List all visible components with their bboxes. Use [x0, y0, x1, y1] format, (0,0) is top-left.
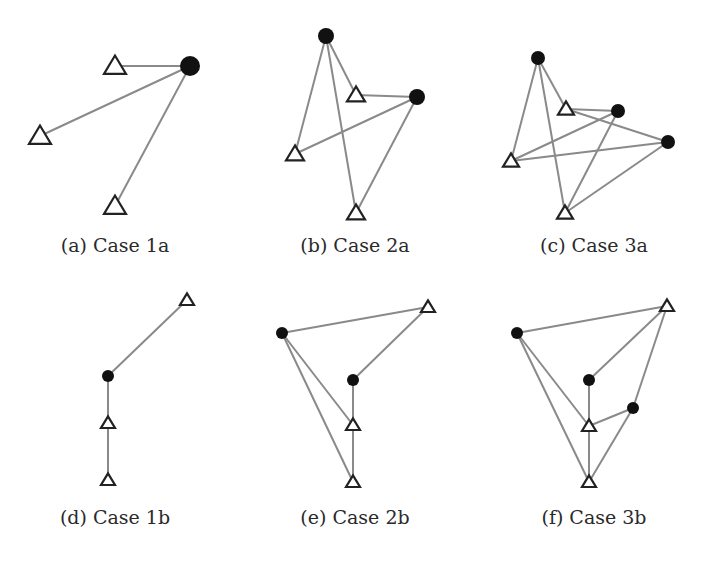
panel-c	[503, 51, 675, 219]
circle-node-icon	[531, 51, 545, 65]
edge-line	[115, 66, 190, 206]
triangle-node-icon	[104, 56, 126, 74]
edge-line	[356, 95, 417, 97]
edge-line	[282, 333, 353, 482]
circle-node-icon	[318, 28, 334, 44]
triangle-node-icon	[286, 145, 304, 160]
triangle-node-icon	[347, 204, 365, 219]
edge-line	[295, 36, 326, 154]
edge-line	[295, 97, 417, 154]
edge-line	[511, 111, 618, 161]
circle-node-icon	[627, 402, 639, 414]
caption-b: (b) Case 2a	[300, 236, 409, 255]
circle-node-icon	[511, 327, 523, 339]
triangle-node-icon	[101, 416, 115, 428]
triangle-node-icon	[421, 300, 435, 312]
caption-d: (d) Case 1b	[60, 508, 170, 527]
triangle-node-icon	[180, 293, 194, 305]
edge-line	[589, 408, 633, 426]
triangle-node-icon	[582, 475, 596, 487]
triangle-node-icon	[101, 473, 115, 485]
edge-line	[517, 306, 667, 333]
triangle-node-icon	[557, 205, 573, 218]
triangle-node-icon	[660, 299, 674, 311]
triangle-node-icon	[347, 86, 365, 101]
panel-f	[511, 299, 674, 487]
circle-node-icon	[661, 135, 675, 149]
triangle-node-icon	[104, 196, 126, 214]
edge-line	[565, 111, 618, 213]
circle-node-icon	[409, 89, 425, 105]
caption-e: (e) Case 2b	[300, 508, 409, 527]
triangle-node-icon	[29, 126, 51, 144]
edge-line	[282, 333, 353, 425]
triangle-node-icon	[558, 101, 574, 114]
circle-node-icon	[347, 374, 359, 386]
caption-f: (f) Case 3b	[541, 508, 646, 527]
diagram-canvas	[0, 0, 706, 561]
circle-node-icon	[180, 56, 200, 76]
panel-b	[286, 28, 425, 219]
panel-a	[29, 56, 200, 214]
caption-c: (c) Case 3a	[540, 236, 648, 255]
triangle-node-icon	[346, 475, 360, 487]
edge-line	[517, 333, 589, 426]
edge-line	[356, 97, 417, 213]
edge-line	[511, 58, 538, 161]
edge-line	[589, 408, 633, 482]
circle-node-icon	[583, 374, 595, 386]
panel-d	[101, 293, 194, 485]
edge-line	[517, 333, 589, 482]
panel-e	[276, 300, 435, 487]
circle-node-icon	[102, 370, 114, 382]
edge-line	[40, 66, 190, 136]
circle-node-icon	[611, 104, 625, 118]
caption-a: (a) Case 1a	[61, 236, 170, 255]
edge-line	[108, 300, 187, 376]
edge-line	[326, 36, 356, 213]
circle-node-icon	[276, 327, 288, 339]
